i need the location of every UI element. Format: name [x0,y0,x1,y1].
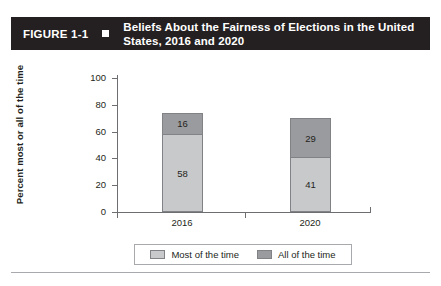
bar-value-2016-most-of-the-time: 58 [177,168,188,179]
figure-title: Beliefs About the Fairness of Elections … [123,20,423,48]
y-tick-mark-80 [112,105,118,106]
legend-swatch-most-of-the-time [150,250,165,259]
legend-label-all-of-the-time: All of the time [278,249,336,260]
legend-swatch-all-of-the-time [257,250,272,259]
y-tick-mark-40 [112,158,118,159]
bar-segment-2020-all-of-the-time[interactable]: 29 [290,118,331,157]
y-tick-mark-100 [112,78,118,79]
x-tick-mark-start [117,212,118,218]
bar-2016[interactable]: 16 58 [162,113,203,212]
x-axis-right-cap [370,207,371,213]
bar-segment-2016-most-of-the-time[interactable]: 58 [162,134,203,212]
bar-segment-2016-all-of-the-time[interactable]: 16 [162,113,203,134]
y-tick-mark-60 [112,132,118,133]
y-tick-mark-20 [112,185,118,186]
figure-number-label: FIGURE 1-1 [23,28,88,40]
x-axis-line [117,212,371,213]
y-tick-label-40: 40 [66,152,106,163]
y-tick-label-100: 100 [66,72,106,83]
chart-legend: Most of the time All of the time [134,244,352,265]
bottom-divider [11,272,430,273]
y-axis-line [117,75,118,215]
chart-canvas: Percent most or all of the time 0 20 40 … [0,55,441,255]
y-tick-label-60: 60 [66,126,106,137]
y-tick-label-80: 80 [66,99,106,110]
legend-item-all-of-the-time[interactable]: All of the time [257,249,336,260]
legend-label-most-of-the-time: Most of the time [171,249,239,260]
figure-header-bar: FIGURE 1-1 Beliefs About the Fairness of… [11,17,430,50]
bar-2020[interactable]: 29 41 [290,118,331,212]
legend-item-most-of-the-time[interactable]: Most of the time [150,249,239,260]
bar-value-2020-all-of-the-time: 29 [305,133,316,144]
x-category-label-2020: 2020 [270,217,350,228]
x-category-label-2016: 2016 [142,217,222,228]
bar-segment-2020-most-of-the-time[interactable]: 41 [290,157,331,212]
bar-value-2016-all-of-the-time: 16 [177,118,188,129]
y-axis-title: Percent most or all of the time [14,60,25,210]
bar-value-2020-most-of-the-time: 41 [305,179,316,190]
square-bullet-icon [102,30,109,37]
y-tick-label-20: 20 [66,179,106,190]
y-tick-label-0: 0 [66,206,106,217]
x-tick-mark-middle [245,212,246,218]
